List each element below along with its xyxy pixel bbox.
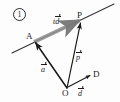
d-vector-letter: d <box>78 90 82 98</box>
td-vector-letter: d <box>55 18 59 26</box>
point-label-D: D <box>93 70 100 79</box>
p-vector-label: p <box>76 54 80 62</box>
point-label-O: O <box>62 89 69 98</box>
d-vector-label: d <box>78 90 82 98</box>
point-label-A: A <box>26 32 33 41</box>
point-label-P: P <box>77 11 82 20</box>
p-vector-letter: p <box>76 54 80 62</box>
vector-diagram-figure: 1 A P D O td p a d <box>0 0 120 102</box>
a-vector-label: a <box>41 66 45 74</box>
td-vector-label: td <box>53 18 59 26</box>
a-vector-letter: a <box>41 66 45 74</box>
d-vector-arrow <box>68 76 90 88</box>
